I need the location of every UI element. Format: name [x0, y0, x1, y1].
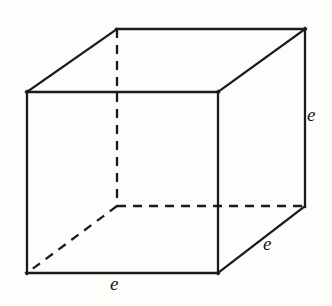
edge-label-height: e [307, 105, 315, 124]
cube-front-face [27, 92, 218, 273]
edge-label-width: e [110, 274, 118, 293]
cube-drawing [0, 0, 332, 306]
cube-figure: e e e [0, 0, 332, 306]
edge-label-depth: e [263, 234, 271, 253]
